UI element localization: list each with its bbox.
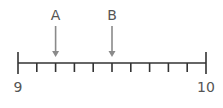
marker-a: A [51, 7, 61, 57]
number-line-diagram: AB 9 10 [0, 0, 223, 108]
marker-b: B [107, 7, 117, 57]
marker-label: A [51, 7, 61, 23]
end-label: 10 [197, 79, 215, 95]
start-label: 9 [14, 79, 23, 95]
markers: AB [51, 7, 117, 57]
arrow-head-icon [109, 51, 116, 57]
arrow-head-icon [52, 51, 59, 57]
marker-label: B [107, 7, 117, 23]
